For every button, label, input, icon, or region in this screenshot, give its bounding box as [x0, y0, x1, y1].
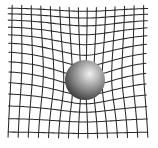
grid-horizontal-line — [8, 27, 147, 35]
grid-horizontal-line — [8, 14, 147, 18]
grid-vertical-line — [28, 6, 32, 138]
grid-vertical-line — [112, 7, 118, 138]
grid-vertical-line — [18, 5, 22, 137]
grid-vertical-line — [143, 6, 147, 138]
diagram-svg — [0, 0, 158, 148]
grid-vertical-line — [38, 6, 43, 137]
grid-horizontal-line — [9, 35, 147, 45]
grid-vertical-line — [49, 7, 54, 138]
mass-sphere — [65, 60, 105, 100]
grid-vertical-line — [133, 6, 138, 137]
grid-vertical-line — [8, 5, 12, 137]
grid-vertical-line — [122, 6, 128, 137]
spacetime-diagram — [0, 0, 158, 148]
grid-horizontal-line — [8, 20, 147, 26]
grid-horizontal-line — [9, 106, 147, 112]
grid-horizontal-line — [9, 43, 147, 55]
